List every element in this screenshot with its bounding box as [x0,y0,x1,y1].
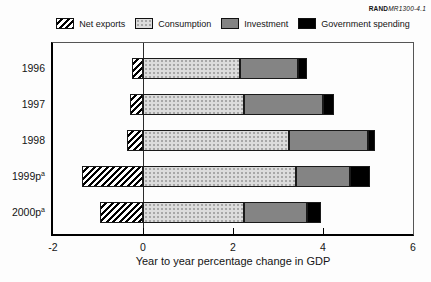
figure-stamp: RANDMR1300-4.1 [369,5,426,12]
x-axis-tick-4 [323,228,324,234]
bar-segment-investment [244,94,323,115]
bar-row-1996 [53,58,413,79]
bar-segment-net_exports [100,202,143,223]
bar-row-1998 [53,130,413,151]
chart-legend: Net exportsConsumptionInvestmentGovernme… [51,18,415,29]
rand-gdp-figure: RANDMR1300-4.1 Net exportsConsumptionInv… [0,0,431,282]
x-axis-tick-2 [233,228,234,234]
y-axis-label-1996: 1996 [0,58,45,79]
y-axis-label-1998: 1998 [0,130,45,151]
legend-swatch-net_exports [56,18,74,29]
bar-segment-government_spending [307,202,321,223]
bar-segment-investment [244,202,307,223]
legend-label-net_exports: Net exports [79,19,125,29]
x-axis-title: Year to year percentage change in GDP [53,255,413,267]
y-axis-label-1997: 1997 [0,94,45,115]
legend-swatch-investment [221,18,239,29]
legend-item-government_spending: Government spending [298,18,410,29]
x-axis-tick-label-4: 4 [320,241,326,253]
bar-row-1999p [53,166,413,187]
legend-label-government_spending: Government spending [321,19,410,29]
bar-segment-investment [240,58,299,79]
bar-segment-consumption [143,202,244,223]
legend-item-investment: Investment [221,18,288,29]
bar-segment-net_exports [127,130,143,151]
legend-swatch-government_spending [298,18,316,29]
x-axis-tick-label-6: 6 [410,241,416,253]
y-axis-label-2000p: 2000pa [0,202,45,223]
bar-segment-consumption [143,94,244,115]
bar-row-1997 [53,94,413,115]
x-axis-tick-label--2: -2 [48,241,57,253]
x-axis-tick-label-2: 2 [230,241,236,253]
bar-segment-consumption [143,130,289,151]
bar-segment-investment [296,166,350,187]
figure-doc-id: MR1300-4.1 [388,5,426,12]
bar-segment-government_spending [323,94,334,115]
x-axis-tick-0 [143,228,144,234]
bar-segment-net_exports [82,166,143,187]
legend-item-net_exports: Net exports [56,18,125,29]
bar-segment-net_exports [130,94,144,115]
legend-label-consumption: Consumption [158,19,211,29]
y-axis-label-1999p: 1999pa [0,166,45,187]
bar-segment-investment [289,130,368,151]
bar-segment-government_spending [298,58,307,79]
bar-segment-consumption [143,58,240,79]
legend-label-investment: Investment [244,19,288,29]
x-axis-tick-label-0: 0 [140,241,146,253]
bar-segment-government_spending [350,166,370,187]
legend-swatch-consumption [135,18,153,29]
bar-segment-consumption [143,166,296,187]
rand-brand-label: RAND [369,5,389,12]
legend-item-consumption: Consumption [135,18,211,29]
bar-row-2000p [53,202,413,223]
bar-segment-net_exports [132,58,143,79]
bar-segment-government_spending [368,130,375,151]
plot-area: Year to year percentage change in GDP 19… [51,42,414,236]
